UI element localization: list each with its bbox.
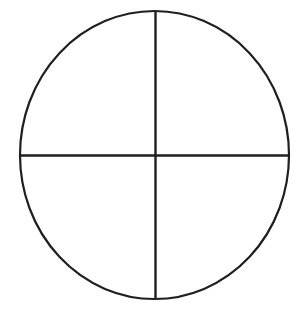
figure-canvas [0,0,301,312]
quartered-circle-diagram [0,0,301,312]
